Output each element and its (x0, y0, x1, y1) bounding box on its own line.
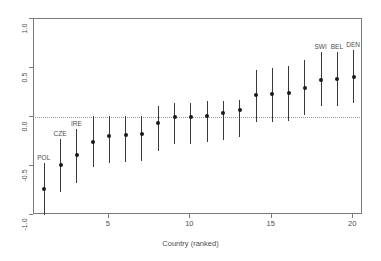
data-point (91, 140, 95, 144)
data-point (59, 163, 63, 167)
y-tick-mark (29, 214, 33, 215)
data-point (221, 111, 225, 115)
data-point (75, 153, 79, 157)
y-tick-label: 0.0 (21, 115, 28, 139)
data-point (270, 92, 274, 96)
data-point (319, 78, 323, 82)
x-tick-label: 10 (177, 219, 201, 228)
data-point (156, 121, 160, 125)
data-point (335, 77, 339, 81)
error-bar (223, 101, 224, 139)
data-marks-layer: POLCZEIRESWIBELDEN (34, 19, 363, 215)
point-label-den: DEN (342, 41, 364, 48)
data-point (205, 114, 209, 118)
point-label-pol: POL (33, 154, 55, 161)
point-label-ire: IRE (65, 120, 87, 127)
data-point (254, 93, 258, 97)
x-tick-label: 20 (340, 219, 364, 228)
error-bar (190, 103, 191, 144)
y-tick-label: 0.5 (21, 66, 28, 90)
error-bar (207, 101, 208, 142)
x-axis-title: Country (ranked) (0, 239, 381, 248)
y-tick-label: -1.0 (21, 213, 28, 237)
point-label-cze: CZE (49, 130, 71, 137)
data-point (352, 75, 356, 79)
data-point (140, 132, 144, 136)
data-point (303, 86, 307, 90)
plot-area: POLCZEIRESWIBELDEN (33, 18, 362, 214)
data-point (42, 187, 46, 191)
error-bar (174, 103, 175, 144)
data-point (173, 115, 177, 119)
x-tick-label: 15 (259, 219, 283, 228)
y-tick-label: -0.5 (21, 164, 28, 188)
x-tick-label: 5 (96, 219, 120, 228)
data-point (238, 108, 242, 112)
chart-figure: -1.0-0.50.00.51.0 5101520 POLCZEIRESWIBE… (0, 0, 381, 261)
error-bar (109, 116, 110, 163)
error-bar (125, 116, 126, 162)
data-point (189, 115, 193, 119)
error-bar (158, 106, 159, 151)
error-bar (239, 100, 240, 136)
y-tick-label: 1.0 (21, 17, 28, 41)
error-bar (141, 116, 142, 161)
data-point (124, 133, 128, 137)
data-point (107, 134, 111, 138)
